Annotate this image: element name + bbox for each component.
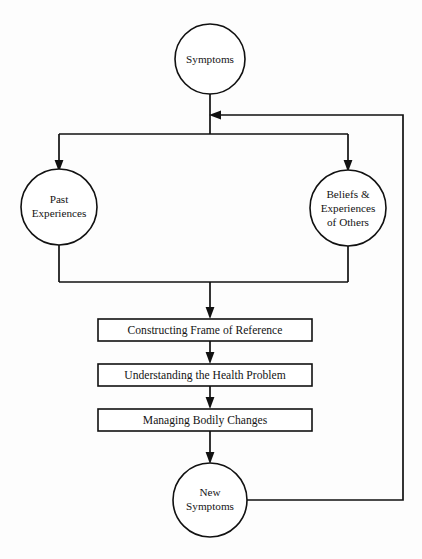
node-constructing-frame[interactable]: Constructing Frame of Reference xyxy=(98,319,312,341)
arrowhead-managing-changes xyxy=(206,397,215,409)
edge-layer xyxy=(55,94,403,500)
edge-new-symptoms-feedback xyxy=(218,115,403,500)
new-symptoms-label-line2: Symptoms xyxy=(186,500,234,512)
constructing-frame-label: Constructing Frame of Reference xyxy=(128,324,283,337)
node-layer: Symptoms Past Experiences Beliefs & Expe… xyxy=(21,24,386,537)
past-experiences-label-line2: Experiences xyxy=(32,207,87,219)
symptoms-label: Symptoms xyxy=(186,53,234,65)
understanding-problem-label: Understanding the Health Problem xyxy=(124,369,285,382)
new-symptoms-label-line1: New xyxy=(199,486,221,498)
node-beliefs-others[interactable]: Beliefs & Experiences of Others xyxy=(310,170,386,246)
node-understanding-problem[interactable]: Understanding the Health Problem xyxy=(98,364,312,386)
node-new-symptoms[interactable]: New Symptoms xyxy=(173,463,247,537)
beliefs-others-label-line2: Experiences xyxy=(321,202,376,214)
node-managing-changes[interactable]: Managing Bodily Changes xyxy=(98,409,312,431)
beliefs-others-label-line3: of Others xyxy=(327,216,369,228)
beliefs-others-label-line1: Beliefs & xyxy=(326,188,369,200)
arrowhead-constructing-frame xyxy=(206,307,215,319)
past-experiences-label-line1: Past xyxy=(50,193,70,205)
managing-changes-label: Managing Bodily Changes xyxy=(143,414,268,427)
arrowhead-understanding-problem xyxy=(206,352,215,364)
node-past-experiences[interactable]: Past Experiences xyxy=(21,169,97,245)
diagram-page: Symptoms Past Experiences Beliefs & Expe… xyxy=(0,0,422,559)
node-symptoms[interactable]: Symptoms xyxy=(175,24,245,94)
flowchart-canvas: Symptoms Past Experiences Beliefs & Expe… xyxy=(0,0,422,559)
